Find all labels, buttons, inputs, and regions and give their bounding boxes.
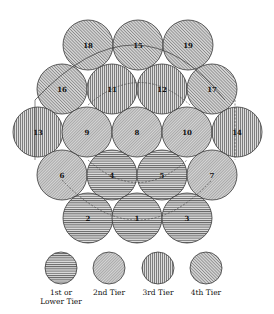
circle-number: 4 <box>110 171 115 180</box>
legend-label: 1st or <box>50 288 73 297</box>
circle-number: 5 <box>160 171 165 180</box>
stack-circle-3: 3 <box>162 193 212 243</box>
legend-label: 4th Tier <box>191 288 222 297</box>
legend-label: 3rd Tier <box>143 288 174 297</box>
legend-item-tier-1: 1st orLower Tier <box>40 252 82 306</box>
legend-label: Lower Tier <box>40 297 82 306</box>
stack-circle-9: 9 <box>62 107 112 157</box>
stack-circle-10: 10 <box>162 107 212 157</box>
legend-label: 2nd Tier <box>93 288 126 297</box>
circle-number: 6 <box>60 171 65 180</box>
legend-item-tier-2: 2nd Tier <box>93 252 126 297</box>
circle-number: 7 <box>210 171 215 180</box>
tier-packing-diagram: 18151916111217139810146457213 1st orLowe… <box>0 0 274 314</box>
stack-circle-5: 5 <box>137 150 187 200</box>
circle-number: 16 <box>57 85 67 94</box>
stack-circle-14: 14 <box>212 107 262 157</box>
circle-number: 8 <box>135 128 140 137</box>
circle-number: 10 <box>182 128 192 137</box>
circle-number: 3 <box>185 214 190 223</box>
stack-circle-16: 16 <box>37 64 87 114</box>
legend-swatch <box>190 252 222 284</box>
circle-number: 19 <box>183 41 193 50</box>
circle-number: 9 <box>85 128 90 137</box>
circle-number: 2 <box>86 214 91 223</box>
circle-number: 12 <box>157 85 167 94</box>
legend-swatch <box>142 252 174 284</box>
stack-circle-17: 17 <box>187 64 237 114</box>
stack-circle-13: 13 <box>13 107 63 157</box>
stack-circle-6: 6 <box>37 150 87 200</box>
legend-swatch <box>45 252 77 284</box>
circle-number: 18 <box>83 41 93 50</box>
stack-circle-8: 8 <box>112 107 162 157</box>
stack-circle-4: 4 <box>87 150 137 200</box>
stack-circle-7: 7 <box>187 150 237 200</box>
stack-circle-19: 19 <box>163 20 213 70</box>
legend-item-tier-3: 3rd Tier <box>142 252 174 297</box>
legend-swatch <box>93 252 125 284</box>
circle-number: 13 <box>33 128 43 137</box>
legend: 1st orLower Tier2nd Tier3rd Tier4th Tier <box>40 252 222 306</box>
stack-circle-1: 1 <box>112 193 162 243</box>
stack-circle-2: 2 <box>63 193 113 243</box>
legend-item-tier-4: 4th Tier <box>190 252 222 297</box>
circle-number: 14 <box>232 128 242 137</box>
circle-number: 1 <box>135 214 140 223</box>
stack-circle-12: 12 <box>137 64 187 114</box>
stack-circle-18: 18 <box>63 20 113 70</box>
